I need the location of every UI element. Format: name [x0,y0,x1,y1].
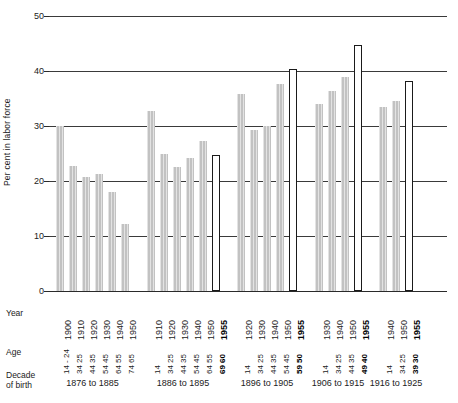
bar-1886-to-1895-1920 [160,154,168,291]
x-age-label-65-74: 74 65 [128,354,137,374]
x-age-label-45-54: 54 45 [283,354,292,374]
x-age-label-14-24: 14 [244,365,253,374]
x-age-label-14-24: 14 [322,365,331,374]
row-label-age: Age [6,347,21,357]
bar-1896-to-1905-1950 [276,84,284,291]
y-tick-label-0: 0 [20,287,44,296]
x-age-label-60-69: 69 60 [219,354,228,374]
plot-area [49,16,447,291]
x-age-label-55-64: 64 55 [115,354,124,374]
x-age-label-25-34: 34 25 [399,354,408,374]
x-year-label-1955: 1955 [362,320,371,340]
x-age-label-35-44: 44 35 [89,354,98,374]
x-year-label-1950: 1950 [129,320,138,340]
tick-mark-40 [44,71,49,72]
bar-1876-to-1885-1910 [69,166,77,291]
tick-mark-30 [44,126,49,127]
x-age-label-30-39: 39 30 [412,354,421,374]
labor-force-bar-chart: Per cent in labor force 01020304050 Year… [0,0,458,403]
bar-1916-to-1925-1955 [405,81,413,291]
x-year-label-1940: 1940 [194,320,203,340]
bar-1886-to-1895-1910 [147,111,155,291]
x-year-label-1940: 1940 [116,320,125,340]
bar-1916-to-1925-1950 [392,101,400,291]
y-axis-title-text: Per cent in labor force [2,98,12,186]
y-tick-label-20: 20 [20,177,44,186]
decade-label-1896-to-1905: 1896 to 1905 [223,378,311,388]
x-year-label-1900: 1900 [64,320,73,340]
bar-1886-to-1895-1930 [173,167,181,291]
y-tick-label-40: 40 [20,67,44,76]
x-age-label-35-44: 44 35 [180,354,189,374]
x-age-label-50-59: 59 50 [296,354,305,374]
x-age-label-25-34: 34 25 [76,354,85,374]
tick-mark-20 [44,181,49,182]
x-age-label-14-24: 14 [386,365,395,374]
bar-1876-to-1885-1920 [82,177,90,291]
x-axis-label-rows: 190014 - 24191034 25192044 35193054 4519… [49,294,447,403]
y-axis-tick-labels: 01020304050 [20,0,44,300]
bar-1906-to-1915-1940 [328,91,336,291]
bar-1916-to-1925-1940 [379,107,387,291]
row-label-year: Year [6,308,23,318]
x-age-label-35-44: 44 35 [270,354,279,374]
x-age-label-35-44: 44 35 [348,354,357,374]
x-age-label-45-54: 54 45 [102,354,111,374]
bar-1906-to-1915-1955 [354,45,362,291]
x-age-label-25-34: 34 25 [335,354,344,374]
x-year-label-1930: 1930 [103,320,112,340]
x-year-label-1930: 1930 [258,320,267,340]
decade-label-1886-to-1895: 1886 to 1895 [133,378,234,388]
y-tick-label-30: 30 [20,122,44,131]
decade-label-1876-to-1885: 1876 to 1885 [42,378,143,388]
bar-1896-to-1905-1955 [289,69,297,291]
x-year-label-1920: 1920 [90,320,99,340]
x-year-label-1950: 1950 [349,320,358,340]
y-tick-label-50: 50 [20,12,44,21]
x-year-label-1910: 1910 [77,320,86,340]
decade-label-1916-to-1925: 1916 to 1925 [365,378,427,388]
gridline-20 [49,181,447,182]
x-year-label-1940: 1940 [387,320,396,340]
row-label-decade-of-birth: Decadeof birth [6,370,35,390]
x-year-label-1955: 1955 [297,320,306,340]
x-age-label-40-49: 49 40 [361,354,370,374]
x-year-label-1910: 1910 [155,320,164,340]
gridline-50 [49,16,447,17]
bar-1906-to-1915-1950 [341,77,349,291]
bar-1886-to-1895-1940 [186,158,194,291]
x-age-label-25-34: 34 25 [257,354,266,374]
x-year-label-1955: 1955 [413,320,422,340]
x-year-label-1940: 1940 [271,320,280,340]
bar-1896-to-1905-1930 [250,130,258,291]
bar-1876-to-1885-1900 [56,126,64,291]
x-year-label-1950: 1950 [284,320,293,340]
gridline-40 [49,71,447,72]
x-age-label-55-64: 64 55 [206,354,215,374]
x-year-label-1920: 1920 [168,320,177,340]
y-tick-label-10: 10 [20,232,44,241]
bar-1886-to-1895-1955 [212,155,220,291]
bar-1896-to-1905-1920 [237,94,245,291]
x-age-label-25-34: 34 25 [167,354,176,374]
bar-1876-to-1885-1940 [108,192,116,291]
y-axis-title: Per cent in labor force [2,0,12,78]
bar-1886-to-1895-1950 [199,141,207,291]
x-year-label-1950: 1950 [207,320,216,340]
x-year-label-1955: 1955 [220,320,229,340]
tick-mark-0 [44,291,49,292]
x-year-label-1950: 1950 [400,320,409,340]
bar-1876-to-1885-1930 [95,174,103,291]
gridline-0 [49,291,447,292]
tick-mark-50 [44,16,49,17]
x-year-label-1920: 1920 [245,320,254,340]
x-year-label-1930: 1930 [323,320,332,340]
x-year-label-1940: 1940 [336,320,345,340]
x-age-label-14-24: 14 - 24 [63,349,72,374]
x-year-label-1930: 1930 [181,320,190,340]
bar-1896-to-1905-1940 [263,126,271,291]
gridline-30 [49,126,447,127]
bar-1906-to-1915-1930 [315,104,323,291]
x-age-label-14-24: 14 [154,365,163,374]
bar-1876-to-1885-1950 [121,224,129,291]
